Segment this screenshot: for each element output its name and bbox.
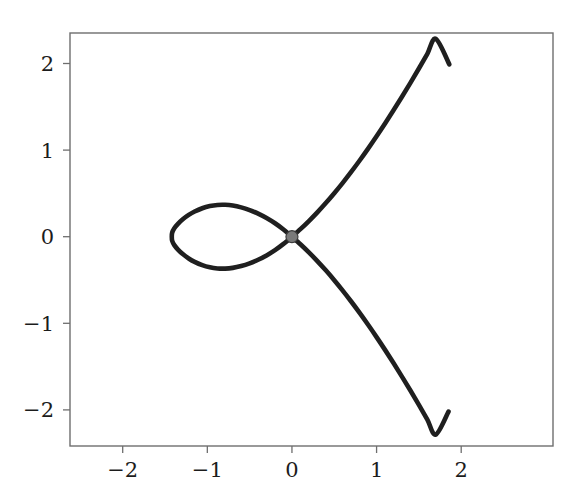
plot-background: [0, 0, 582, 504]
y-tick-label: −1: [23, 312, 54, 336]
x-tick-label: 0: [285, 458, 298, 482]
x-tick-label: 1: [370, 458, 383, 482]
x-tick-label: −1: [192, 458, 223, 482]
figure-canvas: −2−1012210−1−2: [0, 0, 582, 504]
axes-background: [70, 33, 553, 446]
nodal-cubic-plot: −2−1012210−1−2: [0, 0, 582, 504]
node-marker[interactable]: [286, 231, 298, 243]
y-tick-label: 1: [41, 139, 54, 163]
node-point-marker[interactable]: [286, 231, 298, 243]
y-tick-label: −2: [23, 398, 54, 422]
y-tick-label: 0: [41, 225, 54, 249]
y-tick-label: 2: [41, 52, 54, 76]
x-tick-label: −2: [107, 458, 138, 482]
x-tick-label: 2: [455, 458, 468, 482]
